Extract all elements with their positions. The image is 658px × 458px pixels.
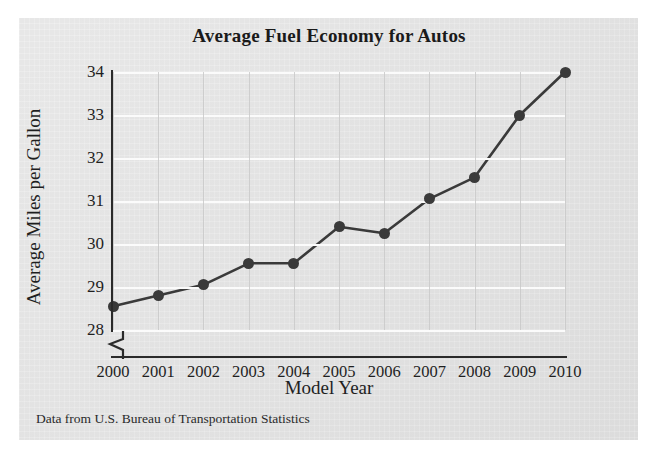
data-point-marker bbox=[334, 221, 345, 232]
data-point-marker bbox=[243, 258, 254, 269]
source-note: Data from U.S. Bureau of Transportation … bbox=[36, 411, 310, 427]
chart-figure: Average Fuel Economy for Autos Average M… bbox=[0, 0, 658, 458]
y-tick-label: 30 bbox=[70, 234, 104, 254]
y-axis-title: Average Miles per Gallon bbox=[23, 77, 45, 337]
data-point-marker bbox=[153, 290, 164, 301]
gridline-vertical bbox=[249, 72, 250, 330]
data-point-marker bbox=[514, 110, 525, 121]
gridline-vertical bbox=[294, 72, 295, 330]
data-point-marker bbox=[108, 301, 119, 312]
y-tick-label: 34 bbox=[70, 62, 104, 82]
x-axis-title: Model Year bbox=[0, 377, 658, 399]
y-axis-line bbox=[111, 70, 113, 332]
gridline-vertical bbox=[113, 72, 114, 330]
x-axis-line bbox=[111, 356, 567, 358]
data-point-marker bbox=[469, 172, 480, 183]
gridline-vertical bbox=[565, 72, 566, 330]
data-point-marker bbox=[379, 228, 390, 239]
gridline-vertical bbox=[339, 72, 340, 330]
gridline-vertical bbox=[475, 72, 476, 330]
y-tick-label: 32 bbox=[70, 148, 104, 168]
axis-break-zigzag-icon bbox=[103, 330, 129, 360]
gridline-horizontal bbox=[113, 330, 565, 332]
gridline-vertical bbox=[203, 72, 204, 330]
y-tick-label: 31 bbox=[70, 191, 104, 211]
gridline-vertical bbox=[384, 72, 385, 330]
y-tick-label: 29 bbox=[70, 277, 104, 297]
plot-area bbox=[113, 72, 565, 330]
data-point-marker bbox=[560, 67, 571, 78]
y-tick-label: 33 bbox=[70, 105, 104, 125]
y-tick-label: 28 bbox=[70, 320, 104, 340]
